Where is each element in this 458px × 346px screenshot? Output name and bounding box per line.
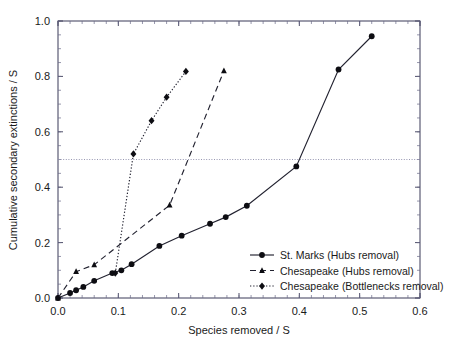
data-point-marker [67,290,73,296]
x-tick-label: 0.6 [412,305,427,317]
data-point-marker [167,202,173,208]
data-point-marker [91,261,97,267]
y-tick-label: 0.0 [35,292,50,304]
y-tick-label: 0.4 [35,181,50,193]
data-point-marker [207,221,213,227]
data-point-marker [80,284,86,290]
y-tick-label: 0.6 [35,126,50,138]
y-tick-label: 0.8 [35,70,50,82]
legend-entry-label: Chesapeake (Hubs removal) [280,265,414,277]
legend-entry[interactable]: Chesapeake (Hubs removal) [250,265,414,277]
legend: St. Marks (Hubs removal)Chesapeake (Hubs… [250,249,443,292]
legend-entry[interactable]: St. Marks (Hubs removal) [250,249,399,261]
x-tick-label: 0.2 [171,305,186,317]
plot-area: 0.00.10.20.30.40.50.60.00.20.40.60.81.0 … [0,0,458,346]
legend-marker-swatch [259,252,265,258]
data-series [112,68,189,277]
data-point-marker [369,33,375,39]
data-point-marker [73,287,79,293]
y-tick-label: 0.2 [35,237,50,249]
x-tick-label: 0.1 [111,305,126,317]
x-tick-label: 0.3 [231,305,246,317]
legend-entry-label: St. Marks (Hubs removal) [280,249,399,261]
data-point-marker [118,267,124,273]
data-point-marker [293,164,299,170]
data-series [55,68,227,301]
data-point-marker [179,233,185,239]
data-point-marker [221,68,227,74]
legend-entry-label: Chesapeake (Bottlenecks removal) [280,280,443,292]
y-axis-label: Cumulative secondary extinctions / S [7,70,19,250]
data-point-marker [156,243,162,249]
data-point-marker [223,214,229,220]
legend-entry[interactable]: Chesapeake (Bottlenecks removal) [250,280,443,292]
x-axis-label: Species removed / S [188,324,290,336]
data-point-marker [149,117,155,124]
x-tick-label: 0.4 [292,305,307,317]
series-line [115,71,186,273]
y-tick-label: 1.0 [35,15,50,27]
data-point-marker [91,278,97,284]
data-point-marker [244,203,250,209]
data-point-marker [129,261,135,267]
series-line [58,71,224,298]
data-point-marker [336,67,342,73]
x-tick-label: 0.5 [352,305,367,317]
data-point-marker [130,150,136,157]
chart-figure: 0.00.10.20.30.40.50.60.00.20.40.60.81.0 … [0,0,458,346]
legend-marker-swatch [259,282,265,289]
x-tick-label: 0.0 [50,305,65,317]
